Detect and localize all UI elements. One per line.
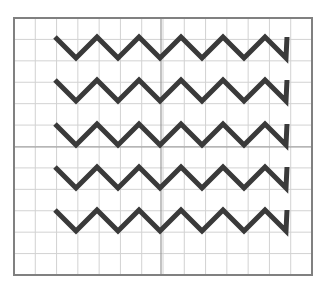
zigzag-pattern-figure: [0, 0, 326, 298]
plot-canvas: [0, 0, 326, 298]
